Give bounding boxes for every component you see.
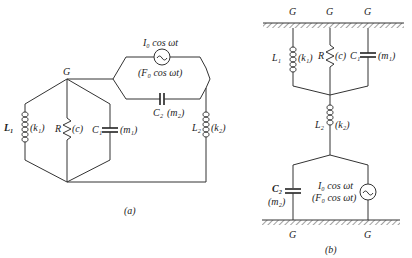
ground-label: G [326, 6, 333, 17]
source-branch: I₀ cos ωt (F₀ cos ωt) [113, 37, 206, 79]
ground-hatch-icon [262, 220, 400, 225]
resistor-r-branch: R (c) [54, 79, 84, 182]
capacitor-c2-branch: C₂ (m₂) [268, 183, 301, 220]
inductor-coil-icon [327, 105, 333, 125]
ground-label: G [364, 6, 371, 17]
ground-label: G [289, 6, 296, 17]
c-label: (c) [335, 50, 347, 62]
source-current-label: I₀ cos ωt [142, 37, 178, 48]
l1-label: L₁ [3, 122, 14, 133]
capacitor-icon [285, 189, 301, 193]
ground-label: G [364, 229, 371, 240]
figure-a-caption: (a) [124, 205, 136, 217]
ac-source-icon [360, 184, 376, 200]
k1-label: (k₁) [30, 122, 45, 134]
inductor-l1-branch: L₁ (k₁) [271, 28, 330, 95]
resistor-r-branch: R (c) [317, 28, 347, 95]
source-branch: I₀ cos ωt (F₀ cos ωt) [312, 180, 376, 220]
k2-label: (k₂) [335, 119, 350, 131]
resistor-zigzag-icon [63, 118, 71, 140]
figure-b-caption: (b) [325, 244, 337, 256]
capacitor-c1-branch: C₁ (m₁) [330, 28, 396, 95]
source-force-label: (F₀ cos ωt) [138, 67, 183, 79]
node-g-label: G [63, 66, 70, 77]
c1-label: C₁ [92, 124, 102, 135]
capacitor-c2-branch: C₂ (m₂) [113, 79, 206, 119]
m2-label: (m₂) [268, 196, 286, 208]
figure-b: G G G L₁ (k₁) R (c) [262, 6, 404, 256]
c2-label: C₂ [272, 183, 282, 194]
source-force-label: (F₀ cos ωt) [312, 192, 357, 204]
figure-a: G L₁ (k₁) R (c) [3, 37, 226, 217]
ground-label: G [289, 229, 296, 240]
inductor-l2-branch: L₂ (k₂) [191, 68, 226, 182]
bottom-ground: G G [262, 220, 400, 240]
l2-label: L₂ [314, 119, 325, 130]
source-current-label: I₀ cos ωt [317, 180, 353, 191]
resistor-zigzag-icon [326, 45, 334, 67]
inductor-coil-icon [290, 47, 296, 72]
l1-label: L₁ [271, 52, 281, 63]
c1-label: C₁ [350, 50, 360, 61]
m1-label: (m₁) [378, 50, 396, 62]
k2-label: (k₂) [211, 122, 226, 134]
k1-label: (k₁) [298, 52, 313, 64]
circuit-diagrams: G L₁ (k₁) R (c) [0, 0, 412, 258]
l2-label: L₂ [191, 122, 202, 133]
r-label: R [317, 50, 324, 61]
m2-label: (m₂) [167, 107, 185, 119]
top-ground: G G G [263, 6, 404, 28]
m1-label: (m₁) [120, 124, 138, 136]
ground-hatch-icon [263, 23, 404, 28]
inductor-coil-icon [203, 112, 209, 137]
capacitor-icon [360, 53, 376, 57]
inductor-coil-icon [22, 112, 28, 142]
c2-label: C₂ [153, 107, 164, 118]
r-label: R [54, 123, 61, 134]
ac-source-icon [154, 49, 170, 65]
capacitor-icon [160, 93, 164, 105]
c-label: (c) [72, 123, 84, 135]
inductor-l2-branch: L₂ (k₂) [314, 95, 350, 155]
capacitor-icon [102, 128, 118, 132]
